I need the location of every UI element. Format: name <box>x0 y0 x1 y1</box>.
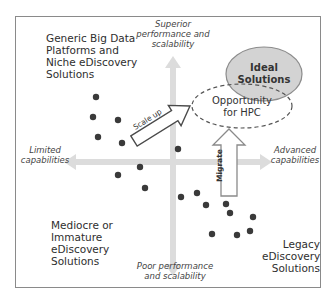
quadrant-label-line: Platforms and <box>46 44 137 56</box>
quadrant-label-line: eDiscovery <box>262 250 320 262</box>
quadrant-label-line: Solutions <box>51 255 113 267</box>
data-point <box>227 210 233 216</box>
quadrant-label-line: Solutions <box>262 262 320 274</box>
axis-label-bottom: Poor performance and scalability <box>125 262 225 282</box>
axis-label-right: Advanced capabilities <box>265 146 325 166</box>
quadrant-label-line: Solutions <box>46 68 137 80</box>
axis-label-top: Superior performance and scalability <box>128 20 218 49</box>
migrate-label: Migrate <box>216 149 225 182</box>
opportunity-hpc-label-line: Opportunity <box>205 95 279 107</box>
data-point <box>93 94 99 100</box>
opportunity-hpc-label: Opportunity for HPC <box>205 95 279 118</box>
data-point <box>115 172 121 178</box>
opportunity-hpc-label-line: for HPC <box>205 107 279 119</box>
axis-label-right-line: capabilities <box>265 156 325 166</box>
data-point <box>142 185 148 191</box>
data-point <box>119 140 125 146</box>
quadrant-label-bottom-left: Mediocre or Immature eDiscovery Solution… <box>51 219 113 267</box>
ideal-solutions-label-line: Ideal <box>230 62 298 74</box>
axis-label-top-line: scalability <box>128 40 218 50</box>
data-point <box>209 231 215 237</box>
horizontal-axis-arrow <box>64 154 272 170</box>
quadrant-label-line: Legacy <box>262 238 320 250</box>
quadrant-label-line: Mediocre or <box>51 219 113 231</box>
data-point <box>247 228 253 234</box>
quadrant-label-bottom-right: Legacy eDiscovery Solutions <box>262 238 320 274</box>
data-point <box>175 146 181 152</box>
data-point <box>203 202 209 208</box>
data-point <box>223 201 229 207</box>
quadrant-label-top-left: Generic Big Data Platforms and Niche eDi… <box>46 32 137 80</box>
data-point <box>137 164 143 170</box>
data-point <box>234 232 240 238</box>
quadrant-label-line: eDiscovery <box>51 243 113 255</box>
ideal-solutions-label: Ideal Solutions <box>230 62 298 85</box>
axis-label-bottom-line: and scalability <box>125 272 225 282</box>
quadrant-label-line: Generic Big Data <box>46 32 137 44</box>
axis-label-left: Limited capabilities <box>18 146 72 166</box>
data-point <box>178 194 184 200</box>
data-point <box>194 190 200 196</box>
data-point <box>90 114 96 120</box>
ideal-solutions-label-line: Solutions <box>230 74 298 86</box>
quadrant-label-line: Niche eDiscovery <box>46 56 137 68</box>
axis-label-left-line: capabilities <box>18 156 72 166</box>
data-point <box>95 134 101 140</box>
vertical-axis-arrow <box>165 56 181 276</box>
data-point <box>250 214 256 220</box>
data-point <box>115 117 121 123</box>
quadrant-label-line: Immature <box>51 231 113 243</box>
